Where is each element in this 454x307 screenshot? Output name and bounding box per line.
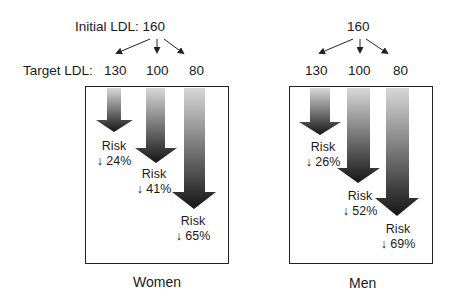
women-risk-130: Risk ↓ 24% (94, 139, 134, 169)
men-caption: Men (349, 276, 376, 290)
risk-word: Risk (134, 167, 174, 182)
women-arrow-100 (135, 88, 177, 163)
men-branch-arrows (320, 39, 387, 53)
risk-word: Risk (94, 139, 134, 154)
men-arrow-130 (299, 88, 341, 135)
risk-change: ↓ 41% (134, 182, 174, 197)
risk-word: Risk (340, 189, 380, 204)
diagram-graphics (0, 0, 454, 307)
risk-change: ↓ 52% (340, 204, 380, 219)
women-arrow-80 (172, 88, 216, 209)
women-branch-arrows (117, 39, 183, 53)
risk-change: ↓ 24% (94, 154, 134, 169)
women-arrow-130 (96, 88, 133, 132)
men-risk-100: Risk ↓ 52% (340, 189, 380, 219)
risk-change: ↓ 69% (378, 237, 418, 252)
risk-change: ↓ 65% (173, 229, 213, 244)
risk-word: Risk (378, 222, 418, 237)
men-risk-130: Risk ↓ 26% (303, 140, 343, 170)
risk-word: Risk (303, 140, 343, 155)
men-risk-80: Risk ↓ 69% (378, 222, 418, 252)
women-risk-100: Risk ↓ 41% (134, 167, 174, 197)
risk-word: Risk (173, 214, 213, 229)
risk-change: ↓ 26% (303, 155, 343, 170)
women-caption: Women (133, 275, 181, 289)
men-arrow-100 (337, 88, 380, 183)
women-risk-80: Risk ↓ 65% (173, 214, 213, 244)
men-arrow-80 (375, 88, 419, 216)
